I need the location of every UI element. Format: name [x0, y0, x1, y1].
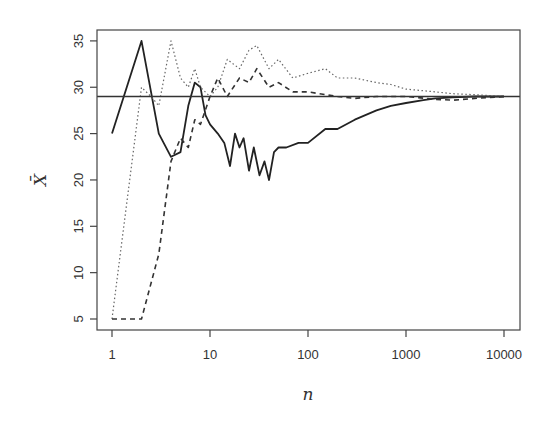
y-tick-label: 5 — [71, 315, 86, 322]
y-axis: 5101520253035 — [71, 34, 97, 323]
series-line-solid — [112, 41, 504, 180]
plot-box — [97, 30, 520, 330]
x-tick-label: 100 — [297, 347, 319, 362]
x-tick-label: 10 — [203, 347, 217, 362]
y-tick-label: 25 — [71, 126, 86, 140]
y-tick-label: 35 — [71, 34, 86, 48]
plot-series — [112, 41, 504, 319]
x-tick-label: 1 — [108, 347, 115, 362]
y-tick-label: 20 — [71, 173, 86, 187]
y-axis-title: X̄ — [29, 173, 50, 188]
x-tick-label: 10000 — [486, 347, 522, 362]
series-line-dotted — [112, 41, 504, 319]
chart: 110100100010000 5101520253035 n X̄ — [0, 0, 546, 426]
y-tick-label: 10 — [71, 265, 86, 279]
x-axis-title: n — [303, 384, 314, 404]
y-tick-label: 15 — [71, 219, 86, 233]
x-tick-label: 1000 — [392, 347, 421, 362]
y-tick-label: 30 — [71, 80, 86, 94]
series-line-dashed — [112, 69, 504, 319]
x-axis: 110100100010000 — [108, 330, 522, 362]
